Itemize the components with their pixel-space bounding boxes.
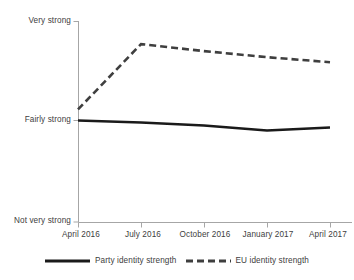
legend-item-eu-identity-strength: EU identity strength [186,256,309,265]
legend-label-eu-identity-strength: EU identity strength [236,256,309,265]
y-axis-ticks [74,22,79,223]
x-axis-label-april-2016: April 2016 [62,231,100,239]
legend-swatch-solid-icon [45,257,90,265]
legend-label-party-identity-strength: Party identity strength [95,256,176,265]
legend-swatch-dashed-icon [186,257,231,265]
series-line-eu-identity-strength [78,44,330,109]
x-axis-label-october-2016: October 2016 [180,231,231,239]
y-axis-label-not-very-strong: Not very strong [14,217,71,225]
series-line-party-identity-strength [78,121,330,131]
x-axis-label-july-2016: July 2016 [125,231,161,239]
line-chart: Very strong Fairly strong Not very stron… [0,0,354,280]
y-axis-label-very-strong: Very strong [28,17,71,25]
plot-area [0,0,354,280]
legend-item-party-identity-strength: Party identity strength [45,256,176,265]
chart-legend: Party identity strength EU identity stre… [0,256,354,265]
x-axis-label-april-2017: April 2017 [309,231,347,239]
x-axis-label-january-2017: January 2017 [243,231,294,239]
x-axis-ticks [79,223,331,228]
y-axis-label-fairly-strong: Fairly strong [25,116,71,124]
